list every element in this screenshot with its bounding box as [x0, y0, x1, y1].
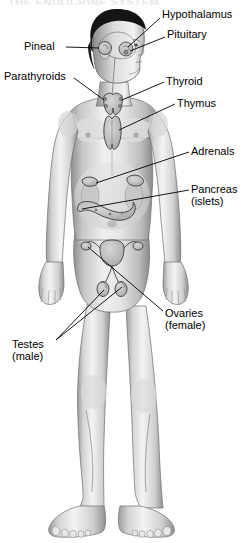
testis-right [115, 282, 127, 297]
body-figure [39, 9, 188, 538]
head [88, 9, 146, 83]
label-adrenals: Adrenals [191, 146, 234, 158]
endocrine-system-figure: THE ENDOCRINE SYSTEM [0, 0, 246, 543]
label-thymus: Thymus [177, 98, 216, 110]
pineal-gland [99, 42, 112, 55]
testis-left [97, 282, 109, 297]
label-pancreas-line2: (islets) [191, 195, 223, 207]
label-pineal: Pineal [24, 41, 55, 53]
label-ovaries-line1: Ovaries [165, 307, 203, 319]
parathyroid-lower-left [104, 104, 107, 107]
label-ovaries: Ovaries (female) [165, 308, 205, 331]
thymus-gland [104, 116, 121, 149]
thyroid-gland [103, 93, 122, 114]
label-pancreas-line1: Pancreas [191, 183, 237, 195]
label-pituitary: Pituitary [167, 29, 207, 41]
parathyroid-lower-right [118, 104, 121, 107]
label-ovaries-line2: (female) [165, 319, 205, 331]
label-parathyroids: Parathyroids [4, 71, 66, 83]
ovary-right [133, 242, 143, 250]
feet [49, 506, 175, 538]
label-thyroid: Thyroid [166, 76, 203, 88]
label-testes-line1: Testes [12, 338, 44, 350]
label-hypothalamus: Hypothalamus [162, 9, 232, 21]
label-pancreas: Pancreas (islets) [191, 184, 237, 207]
legs [77, 300, 163, 508]
label-testes: Testes (male) [12, 339, 44, 362]
label-testes-line2: (male) [12, 350, 43, 362]
